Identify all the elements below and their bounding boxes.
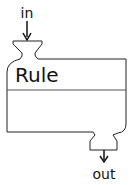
output-port-label: out — [93, 166, 116, 182]
input-arrow-icon — [23, 21, 31, 40]
block-title: Rule — [15, 63, 59, 87]
rule-diagram: in Rule out — [0, 0, 133, 185]
rule-block-outline[interactable] — [7, 41, 126, 150]
input-port-label: in — [21, 5, 34, 21]
output-arrow-icon — [100, 150, 108, 162]
